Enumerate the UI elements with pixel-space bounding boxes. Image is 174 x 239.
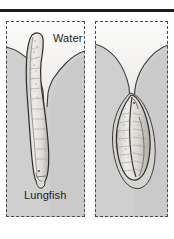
lungfish-burrow-figure: Water Lungfish [0, 0, 174, 239]
label-water: Water [53, 32, 82, 44]
panel-right [95, 21, 168, 217]
label-lungfish: Lungfish [24, 189, 66, 201]
panel-right-illustration [95, 21, 168, 217]
lungfish-eye [38, 170, 40, 172]
panel-left [6, 21, 85, 217]
panel-left-illustration [6, 21, 85, 217]
lungfish-eye [133, 102, 135, 104]
top-divider-rule [0, 9, 174, 12]
